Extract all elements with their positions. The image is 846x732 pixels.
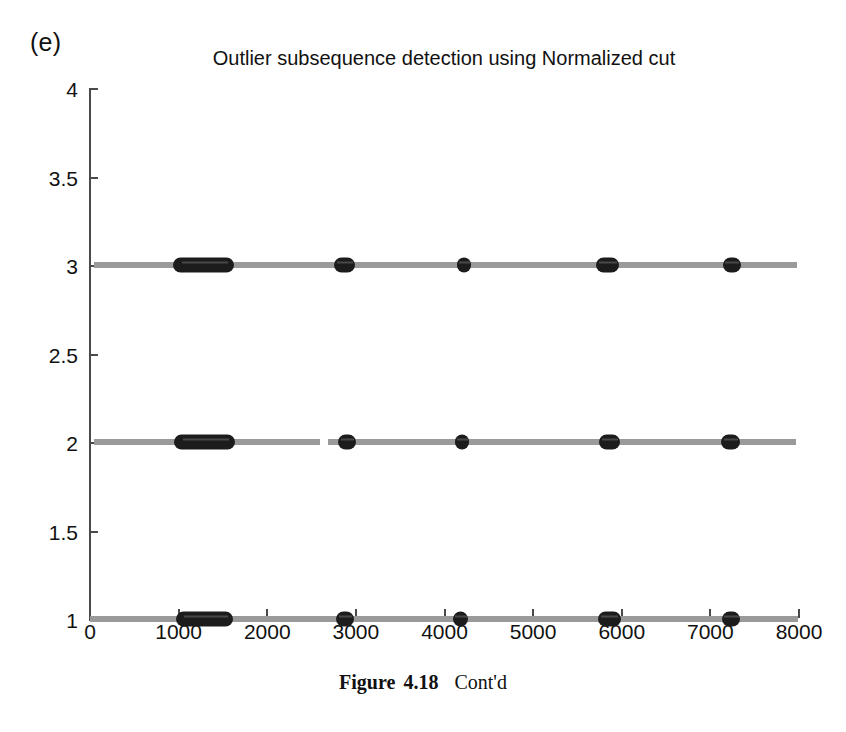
x-tick-label: 5000 xyxy=(510,621,557,642)
x-tick-label: 8000 xyxy=(776,621,823,642)
outlier-marker-cluster xyxy=(174,435,235,450)
y-tick-mark xyxy=(89,531,98,533)
y-tick-label: 1.5 xyxy=(49,521,78,542)
outlier-marker-cluster xyxy=(334,258,355,273)
outlier-marker-cluster xyxy=(723,258,742,273)
y-tick-label: 3.5 xyxy=(49,167,78,188)
y-tick-label: 4 xyxy=(66,79,78,100)
caption-number: 4.18 xyxy=(403,671,438,693)
outlier-marker-cluster xyxy=(598,612,621,627)
x-tick-label: 0 xyxy=(84,621,96,642)
outlier-marker-cluster xyxy=(722,612,741,627)
outlier-marker-cluster xyxy=(453,612,468,627)
plot-area: 11.522.533.54 01000200030004000500060007… xyxy=(89,88,798,618)
x-tick-label: 2000 xyxy=(244,621,291,642)
y-tick-mark xyxy=(89,88,98,90)
caption-text: Cont'd xyxy=(454,671,507,693)
figure-caption: Figure4.18Cont'd xyxy=(0,672,846,692)
outlier-marker-cluster xyxy=(455,435,469,450)
outlier-marker-cluster xyxy=(721,435,740,450)
outlier-marker-cluster xyxy=(336,612,354,627)
y-tick-mark xyxy=(89,177,98,179)
y-tick-label: 2.5 xyxy=(49,344,78,365)
y-tick-label: 2 xyxy=(66,433,78,454)
outlier-marker-cluster xyxy=(176,612,234,627)
y-tick-label: 3 xyxy=(66,256,78,277)
outlier-marker-cluster xyxy=(173,258,234,273)
x-tick-mark xyxy=(798,609,800,618)
outlier-marker-cluster xyxy=(599,435,620,450)
x-tick: 8000 xyxy=(798,609,800,618)
outlier-marker-cluster xyxy=(457,258,471,273)
chart-title: Outlier subsequence detection using Norm… xyxy=(89,48,799,68)
caption-label: Figure xyxy=(339,671,395,693)
figure-root: (e) Outlier subsequence detection using … xyxy=(0,0,846,732)
y-tick-mark xyxy=(89,354,98,356)
outlier-marker-cluster xyxy=(338,435,356,450)
outlier-marker-cluster xyxy=(596,258,619,273)
panel-letter: (e) xyxy=(30,30,61,55)
y-tick-label: 1 xyxy=(66,610,78,631)
